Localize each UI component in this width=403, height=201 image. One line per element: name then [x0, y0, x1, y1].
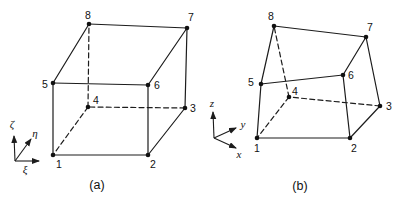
zeta-axis-arrow [14, 136, 15, 161]
edge-3-4 [88, 107, 185, 108]
diagram-b: zyx12345678(b) [209, 10, 392, 193]
edge-3-7 [366, 37, 380, 106]
node-dot-b-6 [341, 73, 346, 78]
node-dot-a-5 [51, 81, 56, 86]
node-label-a-4: 4 [93, 94, 99, 106]
node-dot-a-8 [87, 22, 92, 27]
node-dot-b-3 [378, 104, 383, 109]
node-dot-b-7 [364, 35, 369, 40]
node-dot-a-3 [183, 106, 188, 111]
edge-6-7 [148, 28, 187, 85]
caption-b: (b) [292, 179, 307, 193]
x-axis-label: x [236, 148, 242, 160]
edge-4-1 [53, 107, 88, 155]
zeta-axis-label: ζ [10, 118, 16, 131]
node-label-b-3: 3 [386, 100, 392, 112]
eta-axis-arrow [15, 139, 31, 161]
edge-4-1 [257, 97, 289, 138]
z-axis-arrow [213, 112, 214, 138]
node-label-a-3: 3 [190, 102, 196, 114]
diagram-a: ζηξ12345678(a) [10, 9, 196, 192]
figure-canvas: ζηξ12345678(a)zyx12345678(b) [0, 0, 403, 201]
edge-3-7 [185, 28, 187, 108]
x-axis-arrow [214, 138, 236, 148]
edge-6-7 [343, 37, 366, 75]
node-label-b-8: 8 [268, 10, 274, 22]
node-dot-b-4 [287, 95, 292, 100]
node-dot-a-1 [51, 153, 56, 158]
node-dot-a-7 [185, 26, 190, 31]
edge-1-5 [257, 84, 261, 138]
edge-2-3 [350, 106, 380, 138]
node-label-b-6: 6 [348, 69, 354, 81]
y-axis-label: y [240, 118, 246, 130]
edge-2-6 [343, 75, 350, 138]
node-dot-a-6 [146, 83, 151, 88]
xi-axis-label: ξ [23, 163, 28, 176]
y-axis-arrow [214, 128, 236, 138]
node-label-a-6: 6 [154, 79, 160, 91]
node-dot-a-2 [146, 153, 151, 158]
edge-4-8 [274, 26, 289, 97]
edge-3-4 [289, 97, 380, 106]
node-label-a-1: 1 [56, 158, 62, 170]
node-label-a-2: 2 [150, 158, 156, 170]
node-dot-b-2 [348, 136, 353, 141]
edge-4-8 [88, 24, 89, 107]
edge-7-8 [274, 26, 366, 37]
z-axis-label: z [209, 97, 215, 109]
node-dot-b-8 [272, 24, 277, 29]
edge-8-5 [261, 26, 274, 84]
edge-5-6 [261, 75, 343, 84]
node-label-a-5: 5 [42, 78, 48, 90]
node-label-a-8: 8 [85, 9, 91, 21]
node-label-b-5: 5 [248, 76, 254, 88]
eta-axis-label: η [32, 127, 37, 139]
node-label-b-1: 1 [254, 142, 260, 154]
edge-7-8 [89, 24, 187, 28]
edge-5-6 [53, 83, 148, 85]
node-label-a-7: 7 [188, 11, 194, 23]
edge-2-3 [148, 108, 185, 155]
node-label-b-4: 4 [292, 85, 298, 97]
edge-8-5 [53, 24, 89, 83]
caption-a: (a) [89, 178, 104, 192]
node-dot-b-5 [259, 82, 264, 87]
node-dot-a-4 [86, 105, 91, 110]
node-label-b-7: 7 [367, 21, 373, 33]
hexahedron-diagrams: ζηξ12345678(a)zyx12345678(b) [0, 0, 403, 201]
node-label-b-2: 2 [351, 142, 357, 154]
node-dot-b-1 [255, 136, 260, 141]
